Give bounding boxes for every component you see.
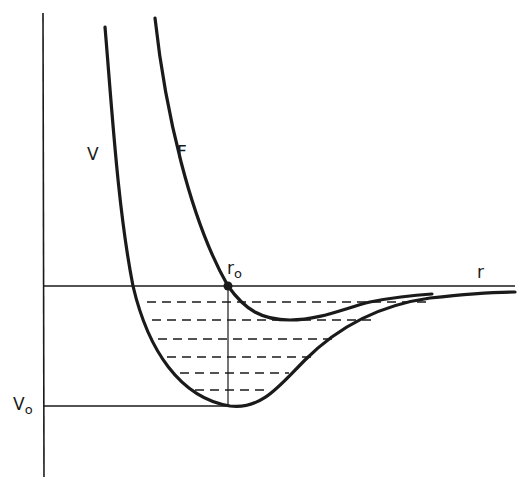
potential-diagram: V F ro r Vo	[0, 0, 523, 495]
f-curve	[155, 18, 432, 320]
v0-label-main: V	[13, 394, 25, 414]
r0-label: ro	[227, 260, 242, 277]
r0-point	[224, 282, 233, 291]
v0-label-sub: o	[25, 402, 33, 417]
v0-label: Vo	[13, 396, 33, 413]
diagram-canvas	[0, 0, 523, 495]
r-axis-label: r	[477, 264, 484, 281]
v-curve	[105, 27, 515, 406]
v-curve-label: V	[87, 146, 99, 163]
r0-label-main: r	[227, 258, 234, 278]
energy-axis	[43, 13, 44, 477]
r0-label-sub: o	[234, 266, 242, 281]
f-curve-label: F	[177, 144, 187, 161]
